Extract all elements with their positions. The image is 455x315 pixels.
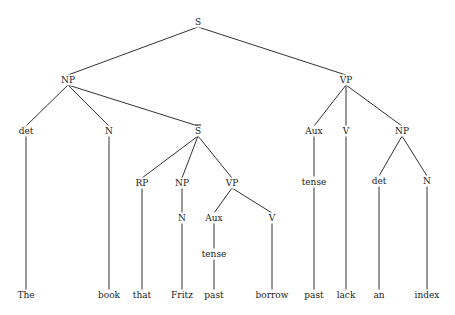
tree-edge bbox=[198, 136, 232, 178]
leaf-word: borrow bbox=[255, 290, 290, 301]
tree-edge bbox=[68, 27, 198, 75]
leaf-word: past bbox=[303, 290, 324, 301]
tree-node-label: NP bbox=[60, 75, 76, 86]
tree-node-label: det bbox=[371, 176, 388, 187]
tree-node-label: tense bbox=[301, 177, 328, 188]
tree-node-label: Aux bbox=[304, 126, 323, 137]
leaf-word: Fritz bbox=[170, 290, 194, 301]
tree-node-label: S bbox=[194, 126, 202, 137]
tree-edge bbox=[68, 85, 198, 126]
leaf-word: past bbox=[203, 290, 224, 301]
tree-node-label: S bbox=[194, 17, 202, 28]
leaf-word: an bbox=[372, 290, 385, 301]
tree-node-label: VP bbox=[225, 178, 240, 189]
leaf-word: that bbox=[132, 290, 152, 301]
tree-node-label: N bbox=[422, 176, 432, 187]
tree-node-label: Aux bbox=[204, 213, 223, 224]
tree-node-label: RP bbox=[135, 178, 150, 189]
leaf-word: book bbox=[97, 290, 121, 301]
tree-edge bbox=[26, 85, 68, 126]
tree-edge bbox=[379, 136, 402, 176]
tree-node-label: NP bbox=[394, 126, 410, 137]
leaf-word: The bbox=[16, 290, 35, 301]
tree-node-label: V bbox=[342, 126, 351, 137]
tree-edge bbox=[214, 188, 232, 213]
tree-node-label: V bbox=[268, 213, 277, 224]
tree-edge bbox=[198, 27, 346, 75]
tree-node-label: det bbox=[18, 126, 35, 137]
tree-node-label: tense bbox=[201, 249, 228, 260]
leaf-word: lack bbox=[336, 290, 357, 301]
leaf-word: index bbox=[414, 290, 441, 301]
tree-edges bbox=[0, 0, 455, 315]
tree-edge bbox=[346, 85, 402, 126]
tree-node-label: NP bbox=[174, 178, 190, 189]
tree-node-label: VP bbox=[339, 75, 354, 86]
tree-node-label: N bbox=[177, 213, 187, 224]
syntax-tree-diagram: SNPVPdetNSAuxVNPRPNPVPtensedetNNAuxVtens… bbox=[0, 0, 455, 315]
tree-edge bbox=[402, 136, 427, 176]
tree-node-label: N bbox=[104, 126, 114, 137]
tree-edge bbox=[232, 188, 272, 213]
tree-edge bbox=[314, 85, 346, 126]
